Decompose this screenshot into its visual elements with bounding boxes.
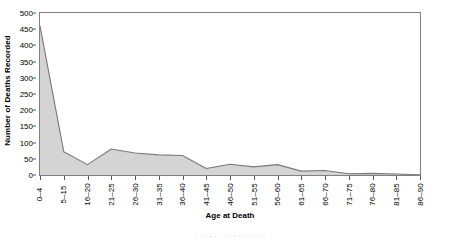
x-tick-mark [254, 176, 255, 180]
y-tick-label: 100 [20, 138, 33, 147]
x-tick-label-text: 36–40 [178, 183, 187, 205]
deaths-by-age-area-chart: Number of Deaths Recorded 05010015020025… [0, 0, 460, 240]
x-tick-label: 86–90 [405, 181, 435, 209]
x-tick-mark [325, 176, 326, 180]
y-tick-mark [33, 94, 36, 95]
y-tick-label: 200 [20, 106, 33, 115]
x-tick-label-text: 66–70 [321, 183, 330, 205]
x-tick-mark [206, 176, 207, 180]
x-tick-mark [349, 176, 350, 180]
x-tick-label-text: 31–35 [154, 183, 163, 205]
x-tick-mark [64, 176, 65, 180]
x-tick-label-text: 86–90 [416, 183, 425, 205]
x-tick-mark [396, 176, 397, 180]
y-tick-mark [33, 77, 36, 78]
x-tick-label-text: 16–20 [83, 183, 92, 205]
x-tick-mark [278, 176, 279, 180]
y-tick-label: 350 [20, 57, 33, 66]
y-tick-mark [33, 61, 36, 62]
y-tick-mark [33, 29, 36, 30]
x-tick-label-text: 41–45 [202, 183, 211, 205]
y-tick-mark [33, 142, 36, 143]
x-tick-label-text: 46–50 [226, 183, 235, 205]
x-axis-title: Age at Death [39, 211, 421, 220]
x-tick-mark [159, 176, 160, 180]
y-tick-mark [33, 126, 36, 127]
y-tick-mark [33, 175, 36, 176]
area-series-svg [40, 13, 420, 175]
area-outline-path [40, 26, 420, 175]
y-tick-label: 400 [20, 41, 33, 50]
x-tick-mark [88, 176, 89, 180]
x-tick-label-text: 81–85 [392, 183, 401, 205]
x-tick-label-text: 71–75 [344, 183, 353, 205]
x-tick-label-text: 21–25 [107, 183, 116, 205]
x-tick-mark [40, 176, 41, 180]
x-tick-label-text: 76–80 [368, 183, 377, 205]
x-tick-label-text: 56–60 [273, 183, 282, 205]
caption-sliver: · · · · · · · · · · · · · · · [0, 232, 460, 240]
x-tick-mark [230, 176, 231, 180]
area-fill-shape [40, 26, 420, 175]
y-axis-title: Number of Deaths Recorded [0, 0, 14, 180]
x-tick-mark [135, 176, 136, 180]
x-tick-label-text: 5–15 [59, 186, 68, 204]
x-tick-label-text: 26–30 [131, 183, 140, 205]
x-tick-mark [111, 176, 112, 180]
y-axis-tick-labels: 050100150200250300350400450500 [14, 12, 36, 176]
y-axis-title-text: Number of Deaths Recorded [3, 35, 12, 146]
x-tick-mark [420, 176, 421, 180]
x-tick-label-text: 0–4 [35, 188, 44, 201]
y-tick-mark [33, 158, 36, 159]
x-tick-label-text: 61–65 [297, 183, 306, 205]
y-tick-label: 450 [20, 25, 33, 34]
y-tick-label: 250 [20, 90, 33, 99]
y-tick-mark [33, 110, 36, 111]
x-tick-label-text: 51–55 [249, 183, 258, 205]
y-tick-label: 150 [20, 122, 33, 131]
x-tick-mark [301, 176, 302, 180]
x-tick-mark [373, 176, 374, 180]
y-tick-label: 500 [20, 9, 33, 18]
y-tick-label: 50 [24, 154, 33, 163]
x-tick-mark [183, 176, 184, 180]
y-tick-label: 300 [20, 73, 33, 82]
x-axis-tick-labels: 0–45–1516–2021–2526–3031–3536–4041–4546–… [39, 181, 421, 209]
plot-area [39, 12, 421, 176]
y-tick-mark [33, 45, 36, 46]
y-tick-mark [33, 13, 36, 14]
